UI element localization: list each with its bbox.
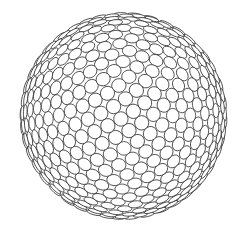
sphere-cell-circle	[40, 97, 51, 113]
sphere-cell-circle	[35, 114, 44, 129]
sphere-cell-circle	[27, 103, 34, 118]
circle-packing-sphere	[20, 12, 227, 219]
sphere-cell-circle	[33, 100, 42, 115]
sphere-illustration	[0, 0, 240, 238]
sphere-cell-circle	[64, 103, 78, 118]
sphere-cell-circle	[28, 116, 35, 131]
sphere-cell-circle	[48, 79, 63, 96]
sphere-cell-circle	[49, 94, 62, 110]
sphere-cell-circle	[23, 105, 27, 120]
sphere-cell-circle	[43, 111, 53, 126]
sphere-cell-circle	[53, 108, 64, 123]
